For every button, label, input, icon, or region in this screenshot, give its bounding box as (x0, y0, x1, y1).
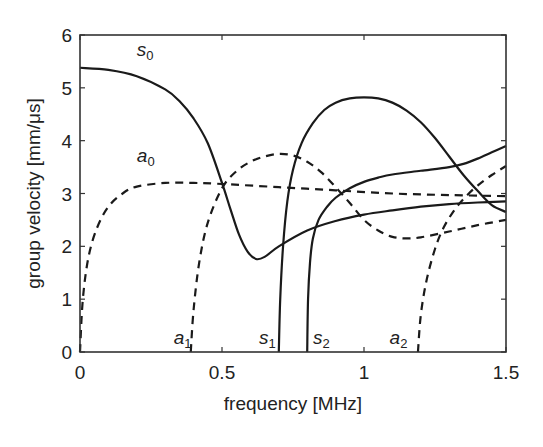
curve-s2 (307, 146, 506, 352)
curve-label-s1: s1 (259, 327, 276, 351)
x-tick-label: 1.5 (493, 362, 519, 383)
x-axis-title: frequency [MHz] (224, 393, 362, 414)
curve-a0 (80, 183, 506, 352)
curve-label-s0: s0 (137, 39, 154, 63)
axis-ticks (80, 35, 506, 352)
y-tick-labels: 0123456 (61, 25, 72, 363)
y-tick-label: 1 (61, 289, 72, 310)
y-tick-label: 2 (61, 236, 72, 257)
plot-frame (80, 35, 506, 352)
curve-labels: s0a0a1s1s2a2 (137, 39, 408, 351)
y-tick-label: 0 (61, 342, 72, 363)
curve-a1 (191, 154, 506, 352)
x-tick-label: 0 (75, 362, 86, 383)
x-tick-labels: 00.511.5 (75, 362, 520, 383)
curve-label-a2: a2 (390, 327, 408, 351)
curve-s1 (279, 97, 506, 352)
y-tick-label: 4 (61, 131, 72, 152)
curve-label-s2: s2 (313, 327, 330, 351)
y-tick-label: 3 (61, 184, 72, 205)
curve-label-a0: a0 (137, 145, 155, 169)
x-tick-label: 1 (359, 362, 370, 383)
group-velocity-chart: 00.511.5 0123456 s0a0a1s1s2a2 frequency … (0, 0, 543, 447)
y-tick-label: 6 (61, 25, 72, 46)
curve-label-a1: a1 (174, 327, 192, 351)
y-tick-label: 5 (61, 78, 72, 99)
dispersion-curves (80, 68, 506, 352)
x-tick-label: 0.5 (209, 362, 235, 383)
y-axis-title: group velocity [mm/μs] (23, 98, 44, 288)
